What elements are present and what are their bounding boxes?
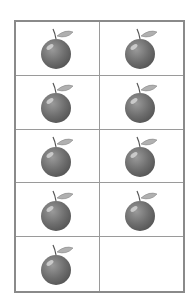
apple-icon <box>37 189 77 233</box>
grid-cell <box>16 183 100 237</box>
grid-cell <box>16 22 100 76</box>
grid-cell <box>100 130 184 184</box>
grid-cell <box>100 22 184 76</box>
apple-icon <box>121 81 161 125</box>
apple-icon <box>37 135 77 179</box>
grid-cell <box>16 130 100 184</box>
apple-icon <box>121 189 161 233</box>
apple-grid <box>14 20 185 293</box>
grid-cell <box>100 76 184 130</box>
apple-icon <box>37 81 77 125</box>
grid-cell <box>100 183 184 237</box>
apple-icon <box>121 135 161 179</box>
apple-icon <box>37 243 77 287</box>
apple-icon <box>121 27 161 71</box>
grid-cell <box>16 237 100 291</box>
grid-cell <box>100 237 184 291</box>
grid-cell <box>16 76 100 130</box>
apple-icon <box>37 27 77 71</box>
